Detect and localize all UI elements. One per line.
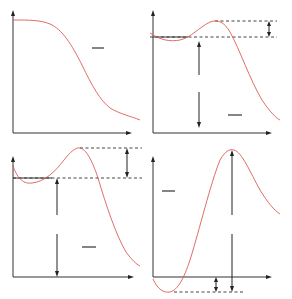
response-curve <box>13 20 140 120</box>
arrowhead-up-icon <box>267 21 271 26</box>
filter-response-diagram: — — <box>0 0 292 299</box>
arrowhead-down-icon <box>55 271 59 277</box>
arrowhead-up-icon <box>214 277 218 282</box>
arrowhead-up-icon <box>197 41 201 47</box>
arrowhead-up-icon <box>230 150 234 156</box>
arrowhead-down-icon <box>214 287 218 292</box>
y-axis-arrowhead-icon <box>151 10 155 16</box>
response-curve <box>13 148 140 266</box>
x-axis-arrowhead-icon <box>266 275 272 279</box>
panel-bottom-right: — <box>0 0 280 292</box>
arrowhead-down-icon <box>230 286 234 292</box>
panel-top-left: — <box>0 0 140 135</box>
response-curve <box>153 150 280 292</box>
x-axis-arrowhead-icon <box>266 131 272 135</box>
y-axis-arrowhead-icon <box>11 156 15 162</box>
arrowhead-down-icon <box>267 32 271 37</box>
arrowhead-down-icon <box>125 172 129 178</box>
arrowhead-up-icon <box>125 148 129 154</box>
y-axis-arrowhead-icon <box>151 156 155 162</box>
arrowhead-up-icon <box>55 178 59 184</box>
x-axis-arrowhead-icon <box>128 275 134 279</box>
panel-bottom-left: — <box>0 0 142 279</box>
arrowhead-down-icon <box>197 122 201 128</box>
panel-top-right: — <box>0 0 280 135</box>
x-axis-arrowhead-icon <box>126 131 132 135</box>
response-curve <box>150 21 280 120</box>
y-axis-arrowhead-icon <box>11 10 15 16</box>
